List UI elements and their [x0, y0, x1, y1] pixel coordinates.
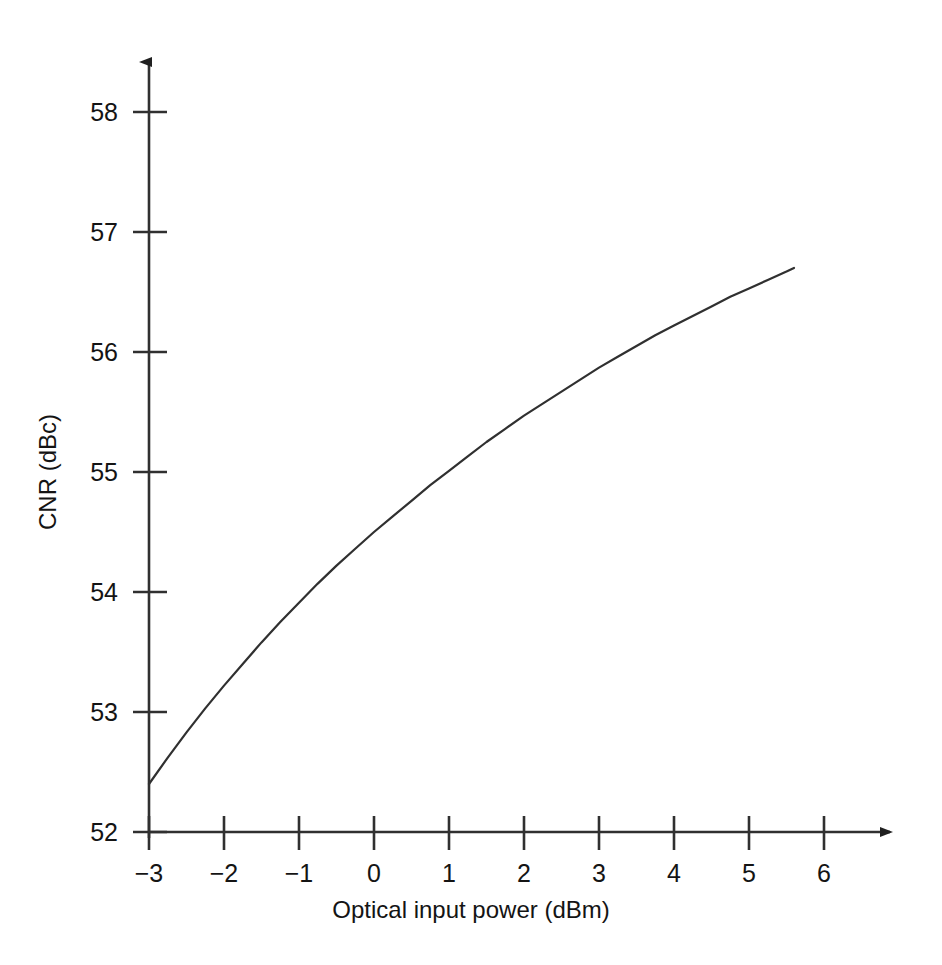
x-tick-label-minus2: −2 — [210, 861, 239, 886]
data-series-line — [149, 268, 794, 784]
y-axis — [133, 62, 167, 838]
chart-figure: 52 53 54 55 56 57 58 −3 −2 −1 0 1 2 3 4 … — [0, 0, 942, 965]
y-tick-label-58: 58 — [60, 100, 118, 125]
x-tick-label-6: 6 — [817, 861, 831, 886]
y-tick-label-57: 57 — [60, 220, 118, 245]
y-tick-label-55: 55 — [60, 460, 118, 485]
x-tick-label-minus3: −3 — [135, 861, 164, 886]
x-tick-label-2: 2 — [517, 861, 531, 886]
x-tick-label-minus1: −1 — [285, 861, 314, 886]
chart-canvas — [0, 0, 942, 965]
x-tick-label-5: 5 — [742, 861, 756, 886]
x-axis — [149, 816, 890, 850]
x-tick-label-3: 3 — [592, 861, 606, 886]
y-tick-label-56: 56 — [60, 340, 118, 365]
x-tick-label-0: 0 — [367, 861, 381, 886]
y-axis-title: CNR (dBc) — [36, 414, 60, 530]
y-tick-label-52: 52 — [60, 820, 118, 845]
x-tick-label-1: 1 — [442, 861, 456, 886]
x-axis-title: Optical input power (dBm) — [332, 898, 609, 922]
y-tick-label-53: 53 — [60, 700, 118, 725]
y-tick-label-54: 54 — [60, 580, 118, 605]
x-tick-label-4: 4 — [667, 861, 681, 886]
